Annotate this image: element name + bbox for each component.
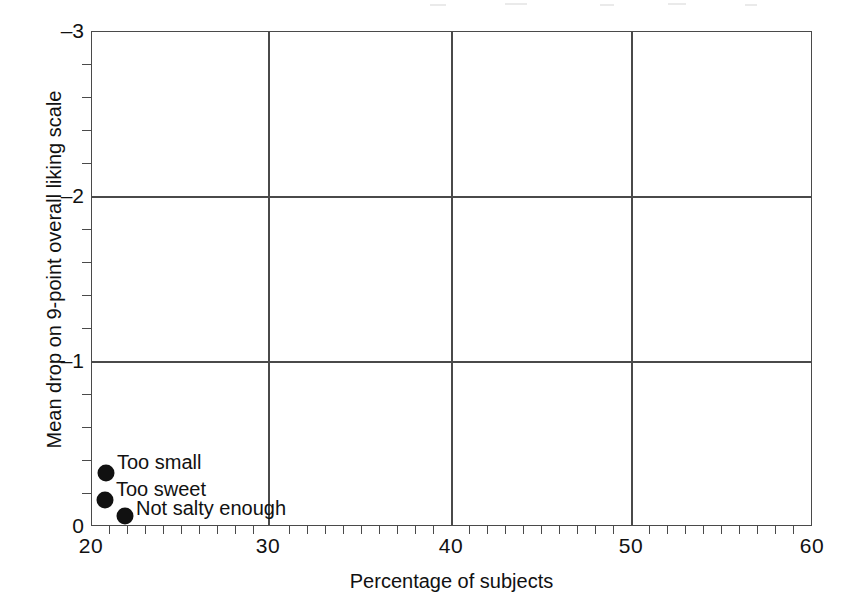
x-tick-label-60: 60 bbox=[782, 534, 842, 558]
x-tick-label-20: 20 bbox=[61, 534, 121, 558]
tick-x-24 bbox=[163, 526, 164, 534]
tick-x-41 bbox=[469, 526, 470, 534]
tick-x-31 bbox=[289, 526, 290, 534]
tick-x-51 bbox=[649, 526, 650, 534]
tick-x-28 bbox=[235, 526, 236, 534]
tick-y-minus1p6 bbox=[82, 262, 91, 263]
tick-x-49 bbox=[613, 526, 614, 534]
tick-x-55 bbox=[721, 526, 722, 534]
tick-x-29 bbox=[253, 526, 254, 534]
tick-x-32 bbox=[307, 526, 308, 534]
tick-x-59 bbox=[793, 526, 794, 534]
scan-artifact bbox=[745, 4, 757, 6]
tick-x-21 bbox=[109, 526, 110, 534]
tick-x-46 bbox=[559, 526, 560, 534]
tick-y-minus1p2 bbox=[82, 328, 91, 329]
x-tick-label-40: 40 bbox=[421, 534, 481, 558]
tick-x-27 bbox=[217, 526, 218, 534]
data-label-not-salty-enough: Not salty enough bbox=[136, 497, 286, 520]
gridline-x-30 bbox=[268, 32, 270, 525]
scan-artifact bbox=[600, 4, 614, 6]
tick-y-minus0p4 bbox=[82, 460, 91, 461]
tick-x-48 bbox=[595, 526, 596, 534]
tick-y-minus1p4 bbox=[82, 295, 91, 296]
tick-x-26 bbox=[199, 526, 200, 534]
scan-artifact bbox=[430, 4, 446, 6]
tick-x-56 bbox=[739, 526, 740, 534]
tick-x-22 bbox=[127, 526, 128, 534]
tick-y-minus0p8 bbox=[82, 394, 91, 395]
data-point-too-small bbox=[98, 465, 115, 482]
data-point-too-sweet bbox=[97, 492, 114, 509]
tick-x-47 bbox=[577, 526, 578, 534]
tick-x-45 bbox=[541, 526, 542, 534]
tick-y-minus0p2 bbox=[82, 493, 91, 494]
plot-area: Too small Too sweet Not salty enough bbox=[91, 31, 812, 526]
tick-x-23 bbox=[145, 526, 146, 534]
gridline-y-minus2 bbox=[92, 196, 811, 198]
x-tick-label-30: 30 bbox=[238, 534, 298, 558]
tick-x-39 bbox=[433, 526, 434, 534]
y-axis-title: Mean drop on 9-point overall liking scal… bbox=[43, 30, 66, 510]
tick-y-minus2p4 bbox=[82, 130, 91, 131]
tick-x-58 bbox=[775, 526, 776, 534]
tick-x-35 bbox=[361, 526, 362, 534]
gridline-x-50 bbox=[631, 32, 633, 525]
tick-x-36 bbox=[379, 526, 380, 534]
tick-y-minus1p8 bbox=[82, 229, 91, 230]
gridline-x-40 bbox=[451, 32, 453, 525]
tick-x-25 bbox=[181, 526, 182, 534]
x-axis-title: Percentage of subjects bbox=[91, 570, 812, 593]
scatter-chart-figure: Too small Too sweet Not salty enough bbox=[0, 0, 846, 613]
x-tick-label-50: 50 bbox=[601, 534, 661, 558]
tick-x-37 bbox=[397, 526, 398, 534]
tick-y-minus0p6 bbox=[82, 427, 91, 428]
tick-x-57 bbox=[757, 526, 758, 534]
tick-y-minus2p6 bbox=[82, 97, 91, 98]
scan-artifact bbox=[668, 3, 686, 5]
tick-x-38 bbox=[415, 526, 416, 534]
scan-artifact bbox=[505, 3, 527, 5]
data-label-too-small: Too small bbox=[117, 451, 201, 474]
gridline-y-minus1 bbox=[92, 361, 811, 363]
tick-x-34 bbox=[343, 526, 344, 534]
tick-x-42 bbox=[487, 526, 488, 534]
tick-y-minus2p2 bbox=[82, 163, 91, 164]
tick-x-52 bbox=[667, 526, 668, 534]
tick-y-minus2p8 bbox=[82, 64, 91, 65]
tick-x-53 bbox=[685, 526, 686, 534]
data-point-not-salty-enough bbox=[117, 508, 134, 525]
tick-x-54 bbox=[703, 526, 704, 534]
tick-x-43 bbox=[505, 526, 506, 534]
tick-x-33 bbox=[325, 526, 326, 534]
tick-x-44 bbox=[523, 526, 524, 534]
